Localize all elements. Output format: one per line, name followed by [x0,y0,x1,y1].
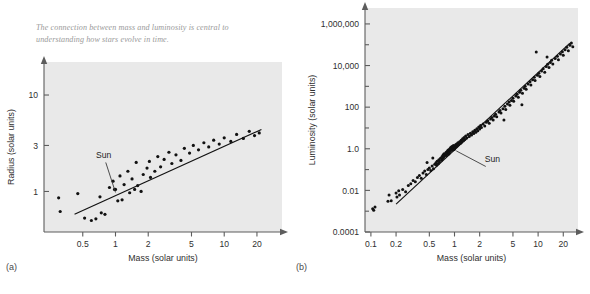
data-point [407,184,410,187]
data-point [502,119,505,122]
data-point [498,109,501,112]
data-point [432,167,435,170]
data-point [517,96,520,99]
data-point [480,126,483,129]
data-point [409,182,412,185]
data-point [546,63,549,66]
data-point [212,139,215,142]
y-tick-label: 1 [33,187,38,197]
x-tick-label: 10 [219,239,229,249]
data-point [520,103,523,106]
y-axis-title: Luminosity (solar units) [307,75,317,166]
panel-label-a: (a) [6,262,17,272]
data-point [501,107,504,110]
data-point [543,71,546,74]
data-point [108,186,111,189]
data-point [488,122,491,125]
x-tick-label: 20 [558,239,568,249]
plot-background [44,62,282,232]
x-tick-label: 0.2 [390,239,402,249]
y-tick-label: 100 [345,102,360,112]
data-point [535,50,538,53]
data-point [570,42,573,45]
data-point [431,157,434,160]
data-point [197,148,200,151]
data-point [192,144,195,147]
data-point [142,173,145,176]
data-point [571,45,574,48]
data-point [524,85,527,88]
x-tick-label: 1 [452,239,457,249]
data-point [120,198,123,201]
mass-luminosity-figure: The connection between mass and luminosi… [0,0,590,294]
data-point [167,151,170,154]
data-point [140,190,143,193]
data-point [94,217,97,220]
data-point [390,199,393,202]
x-tick-label: 0.1 [365,239,377,249]
data-point [503,105,506,108]
data-point [567,49,570,52]
data-point [149,176,152,179]
y-tick-label: 10,000 [333,61,360,71]
data-point [130,177,133,180]
panel-a-chart: 0.512510201310Mass (solar units)Radius (… [0,0,295,294]
data-point [248,130,251,133]
sun-annotation-label: Sun [485,154,501,164]
data-point [207,145,210,148]
data-point [414,180,417,183]
x-tick-label: 1 [113,239,118,249]
x-tick-label: 2 [146,239,151,249]
x-axis-title: Mass (solar units) [437,253,506,263]
data-point [425,173,428,176]
sun-annotation-label: Sun [96,150,112,160]
data-point [428,166,431,169]
data-point [235,133,238,136]
x-axis-arrow [576,229,584,235]
panel-label-b: (b) [296,262,307,272]
data-point [551,62,554,65]
data-point [170,162,173,165]
data-point [388,194,391,197]
data-point [183,147,186,150]
data-point [397,189,400,192]
data-point [508,104,511,107]
data-point [398,194,401,197]
data-point [525,88,528,91]
x-tick-label: 0.5 [423,239,435,249]
x-axis-title: Mass (solar units) [128,253,197,263]
data-point [565,46,568,49]
data-point [116,199,119,202]
data-point [372,209,375,212]
data-point [133,188,136,191]
data-point [90,219,93,222]
y-axis-arrow [41,56,47,64]
data-point [557,58,560,61]
y-axis-title: Radius (solar units) [6,109,16,185]
data-point [529,80,532,83]
data-point [218,142,221,145]
data-point [511,97,514,100]
data-point [258,131,261,134]
data-point [492,119,495,122]
data-point [521,92,524,95]
data-point [253,134,256,137]
data-point [548,66,551,69]
data-point [395,196,398,199]
data-point [483,124,486,127]
data-point [512,100,515,103]
data-point [546,55,549,58]
data-point [495,115,498,118]
data-point [83,216,86,219]
y-tick-label: 3 [33,141,38,151]
x-tick-label: 5 [189,239,194,249]
data-point [395,191,398,194]
y-tick-label: 1,000,000 [321,19,359,29]
data-point [386,200,389,203]
y-axis-arrow [362,2,368,10]
data-point [490,116,493,119]
data-point [420,177,423,180]
data-point [529,84,532,87]
data-point [174,153,177,156]
data-point [123,183,126,186]
